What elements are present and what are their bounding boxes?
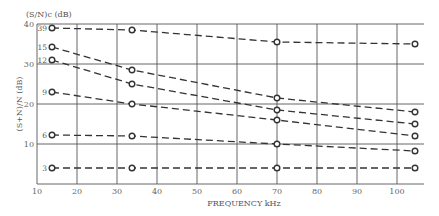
data-point [412,41,418,47]
series-label: 39 [37,24,47,33]
data-point [412,121,418,127]
axis-ticks: 10203040102030405060708090100 [24,20,405,196]
series-line [52,47,415,112]
data-point [274,107,280,113]
data-point [49,132,55,138]
data-point [49,44,55,50]
series-12: 12 [37,56,417,127]
grid [37,24,424,184]
data-series: 391512963 [37,24,417,173]
x-tick-label: 80 [312,187,322,196]
y-tick-label: 10 [24,140,34,149]
series-3: 3 [42,164,418,173]
series-line [52,28,415,44]
series-label: 12 [37,56,47,65]
series-label: 3 [42,164,47,173]
x-tick-label: 50 [192,187,202,196]
x-tick-label: 20 [72,187,82,196]
series-line [52,135,415,151]
y-tick-label: 40 [24,20,34,29]
y-tick-label: 30 [24,60,34,69]
data-point [129,81,135,87]
data-point [274,141,280,147]
data-point [49,89,55,95]
y-tick-label: 20 [24,100,34,109]
data-point [274,117,280,123]
data-point [49,57,55,63]
data-point [129,27,135,33]
data-point [129,165,135,171]
data-point [49,25,55,31]
series-39: 39 [37,24,417,47]
data-point [129,101,135,107]
y-axis-label: (S+N)/N (dB) [15,77,24,132]
x-tick-label: 30 [112,187,122,196]
x-tick-label: 10 [32,187,42,196]
series-label: 6 [42,131,47,140]
data-point [129,67,135,73]
x-tick-label: 40 [152,187,162,196]
data-point [412,165,418,171]
x-tick-label: 90 [352,187,362,196]
x-tick-label: 70 [272,187,282,196]
x-tick-label: 100 [389,187,404,196]
x-axis-label: FREQUENCY kHz [207,199,281,208]
chart: 10203040102030405060708090100 391512963 … [0,0,439,216]
x-tick-label: 60 [232,187,242,196]
data-point [412,109,418,115]
series-9: 9 [42,88,418,139]
data-point [274,165,280,171]
data-point [412,133,418,139]
series-line [52,60,415,124]
data-point [49,165,55,171]
series-label: 15 [37,43,47,52]
series-label-title: (S/N)c (dB) [26,10,72,19]
data-point [274,39,280,45]
data-point [274,95,280,101]
series-label: 9 [42,88,47,97]
data-point [129,133,135,139]
data-point [412,148,418,154]
series-6: 6 [42,131,418,154]
series-line [52,92,415,136]
